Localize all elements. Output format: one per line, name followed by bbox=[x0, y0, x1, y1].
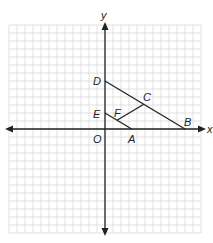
point-label-D: D bbox=[93, 75, 101, 87]
point-label-C: C bbox=[143, 91, 151, 103]
coordinate-plane: x y O A B C D E F bbox=[0, 0, 213, 243]
point-label-A: A bbox=[127, 133, 135, 145]
x-axis-arrow-right-icon bbox=[198, 126, 206, 133]
x-axis-label: x bbox=[206, 123, 213, 135]
point-label-B: B bbox=[184, 116, 191, 128]
y-axis-arrow-down-icon bbox=[102, 228, 109, 236]
y-axis-arrow-up-icon bbox=[102, 22, 109, 30]
point-label-O: O bbox=[93, 133, 102, 145]
y-axis-label: y bbox=[100, 9, 108, 21]
point-label-E: E bbox=[93, 108, 101, 120]
